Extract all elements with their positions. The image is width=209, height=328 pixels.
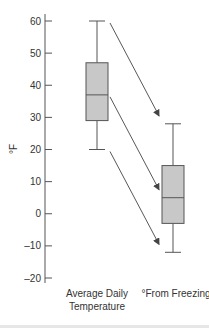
iqr-box (86, 63, 108, 121)
transform-arrow (110, 97, 159, 190)
box-1 (162, 124, 184, 253)
transform-arrow (110, 152, 159, 245)
y-tick-label: –20 (24, 273, 41, 284)
y-axis-label: °F (8, 144, 19, 154)
boxplot-chart: 6050403020100–10–20 °F Average DailyTemp… (0, 0, 209, 325)
box-0 (86, 21, 108, 150)
category-labels: Average DailyTemperature°From Freezing (66, 288, 209, 312)
y-tick-label: 30 (30, 112, 42, 123)
y-tick-label: 60 (30, 16, 42, 27)
y-tick-label: 20 (30, 144, 42, 155)
y-tick-label: 10 (30, 176, 42, 187)
y-axis: 6050403020100–10–20 (24, 14, 52, 284)
y-tick-label: –10 (24, 240, 41, 251)
iqr-box (162, 166, 184, 224)
y-tick-label: 0 (35, 208, 41, 219)
arrows (110, 23, 159, 244)
y-axis-title: °F (8, 144, 19, 154)
y-tick-label: 50 (30, 48, 42, 59)
category-label: Temperature (69, 301, 126, 312)
transform-arrow (110, 23, 159, 116)
category-label: Average Daily (66, 288, 128, 299)
y-tick-label: 40 (30, 80, 42, 91)
boxes (86, 21, 184, 252)
category-label: °From Freezing (141, 288, 209, 299)
